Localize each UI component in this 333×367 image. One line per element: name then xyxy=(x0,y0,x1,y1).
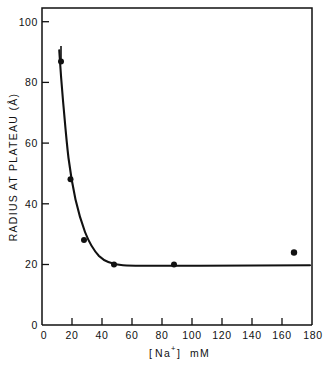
x-axis-ticks xyxy=(72,318,282,325)
data-point-1 xyxy=(58,59,64,65)
y-axis-title-group: RADIUS AT PLATEAU (Å) xyxy=(7,93,19,242)
y-tick-label-60: 60 xyxy=(25,137,38,149)
x-axis-title-bracket-open: [ xyxy=(149,347,153,359)
data-point-4 xyxy=(111,262,117,268)
x-tick-label-40: 40 xyxy=(96,329,109,341)
y-axis-title: RADIUS AT PLATEAU (Å) xyxy=(7,93,19,242)
x-tick-label-60: 60 xyxy=(126,329,139,341)
data-point-2 xyxy=(68,176,74,182)
y-axis-ticks xyxy=(42,22,49,265)
x-axis-title-group: [ Na + ] mM xyxy=(149,344,210,359)
y-tick-label-0: 0 xyxy=(32,319,38,331)
x-axis-title-species: Na xyxy=(155,347,171,359)
data-points xyxy=(58,59,297,268)
data-point-5 xyxy=(171,262,177,268)
x-tick-label-160: 160 xyxy=(272,329,291,341)
radius-vs-sodium-plot: 100 80 60 40 20 0 0 20 40 60 80 100 120 xyxy=(0,0,333,367)
data-point-6 xyxy=(291,249,297,255)
x-tick-label-20: 20 xyxy=(66,329,79,341)
x-tick-label-100: 100 xyxy=(182,329,201,341)
y-tick-label-100: 100 xyxy=(19,16,38,28)
y-axis-tick-labels: 100 80 60 40 20 0 xyxy=(19,16,38,332)
plot-frame xyxy=(42,8,312,325)
x-tick-label-180: 180 xyxy=(303,329,322,341)
y-tick-label-20: 20 xyxy=(25,258,38,270)
x-tick-label-80: 80 xyxy=(156,329,169,341)
x-tick-label-140: 140 xyxy=(242,329,261,341)
x-axis-title-charge: + xyxy=(171,344,176,353)
x-axis-title-units: mM xyxy=(190,347,210,359)
x-axis-title-bracket-close: ] xyxy=(177,347,181,359)
x-axis-tick-labels: 0 20 40 60 80 100 120 140 160 180 xyxy=(41,329,323,341)
y-tick-label-80: 80 xyxy=(25,76,38,88)
x-tick-label-0: 0 xyxy=(41,329,47,341)
data-point-3 xyxy=(81,237,87,243)
fitted-curve xyxy=(59,50,310,266)
y-tick-label-40: 40 xyxy=(25,198,38,210)
frame-border xyxy=(42,8,312,325)
x-tick-label-120: 120 xyxy=(212,329,231,341)
figure-container: 100 80 60 40 20 0 0 20 40 60 80 100 120 xyxy=(0,0,333,367)
